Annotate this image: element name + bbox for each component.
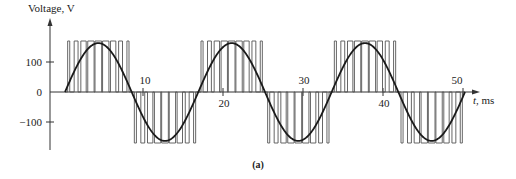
pwm-half-cycle	[265, 92, 332, 143]
x-tick-label-50: 50	[452, 74, 464, 86]
x-tick-label-20: 20	[219, 97, 231, 109]
y-tick-label-0: 0	[37, 86, 43, 98]
pwm-voltage-chart: Voltage, V 100 0 −100 10 20 30 40 50 t, …	[0, 0, 516, 179]
y-axis-arrow-icon	[48, 18, 53, 26]
pwm-half-cycle	[332, 41, 399, 92]
x-tick-label-40: 40	[379, 97, 391, 109]
x-axis-label-unit: , ms	[476, 94, 494, 106]
pwm-half-cycle	[398, 92, 465, 143]
x-tick-label-30: 30	[299, 74, 311, 86]
pwm-half-cycle	[198, 41, 265, 92]
pwm-half-cycle	[132, 92, 199, 143]
y-axis-label: Voltage, V	[28, 2, 75, 14]
pwm-half-cycle	[65, 41, 132, 92]
x-axis-label: t, ms	[473, 94, 494, 106]
y-tick-label-minus-100: −100	[19, 116, 42, 128]
y-tick-label-100: 100	[26, 56, 43, 68]
figure-caption: (a)	[252, 159, 264, 171]
x-tick-label-10: 10	[140, 74, 152, 86]
